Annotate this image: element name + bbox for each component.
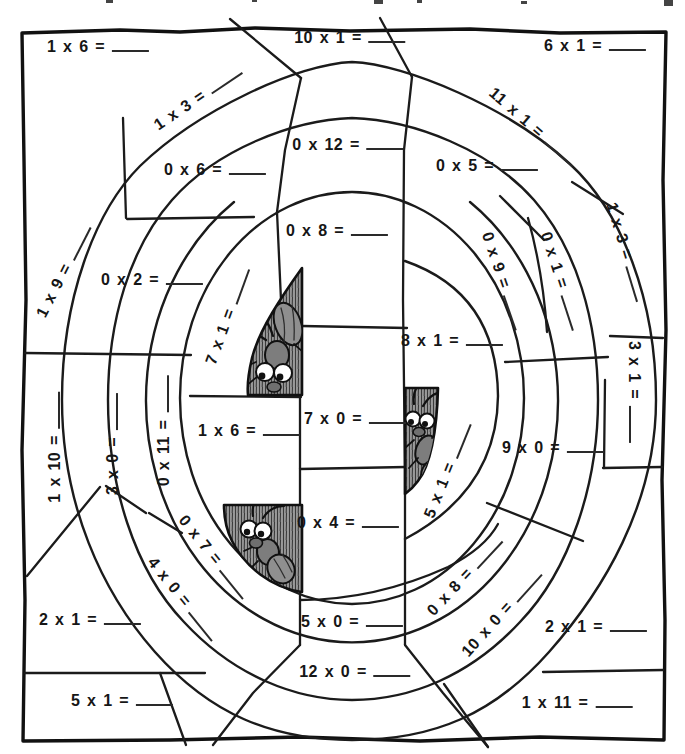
problem-text: 10 x 1 = bbox=[294, 29, 361, 46]
problem-text: 2 x 1 = bbox=[545, 618, 603, 635]
problem-label: 5 x 1 = bbox=[71, 693, 173, 709]
shaded-wedge-1 bbox=[242, 268, 308, 395]
problem-label: 1 x 10 = bbox=[47, 391, 63, 502]
problem-label: 0 x 4 = bbox=[297, 515, 399, 531]
problem-text: 0 x 5 = bbox=[436, 157, 494, 174]
problem-text: 0 x 12 = bbox=[292, 136, 359, 153]
problem-label: 3 x 0 = bbox=[105, 393, 121, 495]
answer-blank[interactable] bbox=[229, 170, 266, 175]
problem-label: 1 x 6 = bbox=[198, 423, 300, 439]
segment-dividers bbox=[25, 18, 663, 747]
problem-label: 0 x 6 = bbox=[164, 162, 266, 178]
problem-label: 1 x 6 = bbox=[47, 39, 149, 55]
problem-label: 6 x 1 = bbox=[544, 38, 646, 54]
problem-label: 2 x 1 = bbox=[545, 619, 647, 635]
answer-blank[interactable] bbox=[567, 448, 604, 453]
answer-blank[interactable] bbox=[466, 341, 503, 346]
problem-text: 12 x 0 = bbox=[299, 663, 366, 680]
answer-blank[interactable] bbox=[136, 701, 173, 706]
answer-blank[interactable] bbox=[263, 431, 300, 436]
answer-blank[interactable] bbox=[609, 46, 646, 51]
problem-text: 5 x 0 = bbox=[301, 613, 359, 630]
problem-text: 9 x 0 = bbox=[502, 439, 560, 456]
problem-text: 0 x 4 = bbox=[297, 514, 355, 531]
problem-text: 0 x 2 = bbox=[101, 271, 159, 288]
problem-text: 1 x 6 = bbox=[198, 422, 256, 439]
answer-blank[interactable] bbox=[366, 622, 403, 627]
answer-blank[interactable] bbox=[369, 419, 406, 424]
problem-text: 6 x 1 = bbox=[544, 37, 602, 54]
problem-text: 1 x 11 = bbox=[522, 694, 589, 711]
answer-blank[interactable] bbox=[610, 627, 647, 632]
problem-label: 12 x 0 = bbox=[299, 664, 410, 680]
answer-blank[interactable] bbox=[104, 620, 141, 625]
answer-blank[interactable] bbox=[166, 280, 203, 285]
problem-text: 7 x 0 = bbox=[304, 410, 362, 427]
problem-text: 3 x 0 = bbox=[104, 437, 121, 495]
answer-blank[interactable] bbox=[595, 703, 632, 708]
problem-label: 9 x 0 = bbox=[502, 440, 604, 456]
problem-label: 1 x 11 = bbox=[522, 695, 633, 711]
problem-text: 0 x 6 = bbox=[164, 161, 222, 178]
answer-blank[interactable] bbox=[362, 523, 399, 528]
answer-blank[interactable] bbox=[629, 406, 634, 443]
problem-label: 2 x 1 = bbox=[39, 612, 141, 628]
problem-label: 0 x 12 = bbox=[292, 137, 403, 153]
problem-text: 8 x 1 = bbox=[401, 332, 459, 349]
cropped-header-fragments bbox=[106, 0, 673, 6]
problem-text: 1 x 6 = bbox=[47, 38, 105, 55]
answer-blank[interactable] bbox=[113, 393, 118, 430]
problem-label: 0 x 11 = bbox=[156, 376, 172, 487]
answer-blank[interactable] bbox=[351, 231, 388, 236]
problem-text: 2 x 1 = bbox=[39, 611, 97, 628]
problem-label: 10 x 1 = bbox=[294, 30, 405, 46]
problem-label: 8 x 1 = bbox=[401, 333, 503, 349]
puzzle-line-art bbox=[0, 0, 685, 754]
problem-text: 3 x 1 = bbox=[626, 341, 643, 399]
problem-text: 0 x 11 = bbox=[155, 420, 172, 487]
problem-label: 0 x 2 = bbox=[101, 272, 203, 288]
worksheet-page: 1 x 6 = 10 x 1 = 6 x 1 = 1 x 3 = 11 x 1 … bbox=[0, 0, 685, 754]
problem-label: 7 x 0 = bbox=[304, 411, 406, 427]
answer-blank[interactable] bbox=[164, 376, 169, 413]
problem-text: 5 x 1 = bbox=[71, 692, 129, 709]
answer-blank[interactable] bbox=[501, 166, 538, 171]
answer-blank[interactable] bbox=[112, 47, 149, 52]
answer-blank[interactable] bbox=[369, 38, 406, 43]
answer-blank[interactable] bbox=[367, 145, 404, 150]
answer-blank[interactable] bbox=[55, 391, 60, 428]
problem-text: 1 x 10 = bbox=[46, 435, 63, 502]
problem-label: 0 x 5 = bbox=[436, 158, 538, 174]
problem-label: 3 x 1 = bbox=[626, 341, 642, 443]
problem-text: 0 x 8 = bbox=[286, 222, 344, 239]
problem-label: 0 x 8 = bbox=[286, 223, 388, 239]
problem-label: 5 x 0 = bbox=[301, 614, 403, 630]
answer-blank[interactable] bbox=[374, 672, 411, 677]
